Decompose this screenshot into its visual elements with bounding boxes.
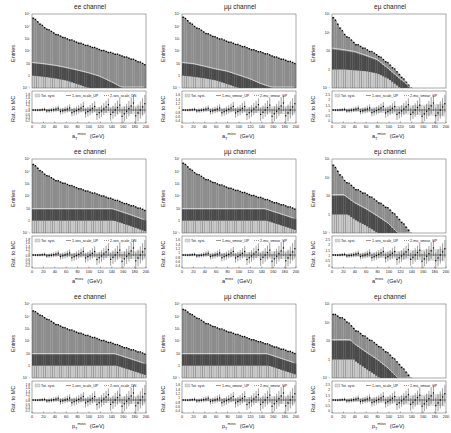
x-label-sub: T	[75, 426, 77, 431]
x-axis-label: pTmiss(GeV)	[72, 421, 104, 431]
x-tick-label: 80	[225, 270, 229, 274]
x-label-unit: (GeV)	[87, 278, 102, 284]
x-tick-label: 100	[236, 125, 242, 129]
plot-panel-2-1: ee channelTot. syst.1-ses_scale_UP2-ses_…	[0, 145, 150, 289]
x-tick-label: 80	[375, 125, 379, 129]
y-tick-label: 10	[326, 49, 330, 53]
ratio-tick-label: 1.5	[326, 249, 331, 253]
x-axis-label: pTmiss(GeV)	[222, 421, 254, 431]
legend-entry: Tot. syst.	[341, 94, 355, 98]
x-tick-label: 0	[331, 270, 333, 274]
ratio-tick-label: 2	[328, 98, 330, 102]
x-tick-label: 100	[386, 270, 392, 274]
ratio-tick-label: 1.2	[176, 392, 181, 396]
y-tick-label: 10	[26, 207, 30, 211]
ratio-axis-label: Rat. to MC	[10, 386, 16, 412]
x-tick-label: 140	[259, 125, 265, 129]
x-tick-label: 180	[131, 415, 137, 419]
x-tick-label: 20	[41, 415, 45, 419]
ratio-tick-label: 1.8	[26, 238, 31, 242]
ratio-axis-label: Rat. to MC	[310, 96, 316, 122]
x-tick-label: 120	[97, 125, 103, 129]
ratio-tick-label: 1.4	[176, 98, 181, 102]
x-tick-label: 20	[341, 125, 345, 129]
x-tick-label: 160	[420, 125, 426, 129]
x-tick-label: 20	[41, 270, 45, 274]
x-label-sup: miss	[225, 276, 233, 281]
x-tick-label: 120	[397, 270, 403, 274]
y-tick-label: 10²	[325, 31, 331, 35]
y-axis-label: Entries	[310, 190, 316, 207]
ratio-tick-label: 0.6	[176, 260, 181, 264]
y-tick-label: 10⁵	[25, 157, 31, 161]
y-tick-label: 10²	[175, 49, 181, 53]
legend-entry: 1-mu_smear_UP	[222, 384, 250, 388]
x-tick-label: 100	[86, 415, 92, 419]
legend-entry: Tot. syst.	[341, 239, 355, 243]
plot-panel-3-2: μμ channelTot. syst.1-mu_smear_UP2-mu_sm…	[150, 290, 300, 433]
legend-entry: Tot. syst.	[191, 239, 205, 243]
x-tick-label: 140	[409, 270, 415, 274]
x-tick-label: 0	[331, 415, 333, 419]
histogram-svg: Tot. syst.1-mu_smear_UP2-mu_smear_UP0204…	[150, 290, 300, 433]
legend-entry: Tot. syst.	[191, 94, 205, 98]
x-tick-label: 160	[420, 415, 426, 419]
x-tick-label: 160	[120, 125, 126, 129]
x-tick-label: 80	[75, 415, 79, 419]
y-tick-label: 1	[28, 219, 30, 223]
histogram-svg: Tot. syst.1-ses_scale_UP2-mu_smear_UP020…	[300, 145, 450, 289]
ratio-tick-label: 1.8	[26, 93, 31, 97]
histogram-svg: Tot. syst.1-ses_scale_UP2-ses_scale_DN02…	[0, 0, 150, 144]
legend-entry: 1-ses_scale_UP	[372, 239, 399, 243]
x-label-sup: miss	[228, 131, 236, 136]
x-tick-label: 0	[181, 125, 183, 129]
ratio-tick-label: 1	[178, 106, 180, 110]
y-tick-label: 10⁻¹	[323, 86, 331, 90]
x-tick-label: 100	[386, 125, 392, 129]
y-tick-label: 10⁵	[175, 157, 181, 161]
y-axis-label: Entries	[10, 45, 16, 62]
y-tick-label: 10⁻¹	[173, 376, 181, 380]
y-axis-label: Entries	[10, 335, 16, 352]
y-tick-label: 1	[328, 213, 330, 217]
x-tick-label: 120	[247, 415, 253, 419]
x-tick-label: 200	[143, 270, 149, 274]
legend-entry: 1-ses_scale_UP	[72, 384, 99, 388]
x-label-unit: (GeV)	[240, 133, 255, 139]
y-axis-label: Entries	[160, 335, 166, 352]
legend-entry: 2-mu_smear_UP	[410, 384, 438, 388]
ratio-tick-label: 1	[328, 109, 330, 113]
x-tick-label: 100	[386, 415, 392, 419]
x-tick-label: 60	[64, 415, 68, 419]
y-tick-label: 10²	[175, 194, 181, 198]
x-label-sup: miss	[378, 131, 386, 136]
x-label-sup: miss	[75, 276, 83, 281]
y-axis-label: Entries	[310, 45, 316, 62]
x-tick-label: 60	[64, 125, 68, 129]
x-tick-label: 80	[75, 125, 79, 129]
x-tick-label: 40	[53, 270, 57, 274]
x-axis-label: amiss(GeV)	[72, 276, 102, 286]
y-tick-label: 10⁵	[25, 302, 31, 306]
ratio-axis-label: Rat. to MC	[310, 386, 316, 412]
x-tick-label: 160	[420, 270, 426, 274]
legend-entry: 2-mu_smear_UP	[260, 94, 288, 98]
plot-panel-1-2: μμ channelTot. syst.1-mu_smear_UP2-mu_sm…	[150, 0, 300, 144]
y-tick-label: 10²	[175, 339, 181, 343]
x-tick-label: 120	[397, 415, 403, 419]
y-tick-label: 10³	[325, 157, 331, 161]
ratio-tick-label: 0.6	[176, 405, 181, 409]
x-tick-label: 0	[331, 125, 333, 129]
y-tick-label: 10⁴	[24, 25, 30, 29]
ratio-tick-label: 1	[328, 399, 330, 403]
ratio-tick-label: 1.4	[176, 243, 181, 247]
x-tick-label: 160	[270, 270, 276, 274]
ratio-axis-label: Rat. to MC	[310, 241, 316, 267]
legend-entry: 2-ses_scale_DN	[110, 94, 137, 98]
ratio-axis-label: Rat. to MC	[160, 96, 166, 122]
ratio-tick-label: 1.2	[176, 102, 181, 106]
legend-entry: Tot. syst.	[41, 239, 55, 243]
plot-panel-3-3: eμ channelTot. syst.1-ses_scale_UP2-mu_s…	[300, 290, 450, 433]
y-tick-label: 10	[176, 352, 180, 356]
x-tick-label: 80	[225, 125, 229, 129]
